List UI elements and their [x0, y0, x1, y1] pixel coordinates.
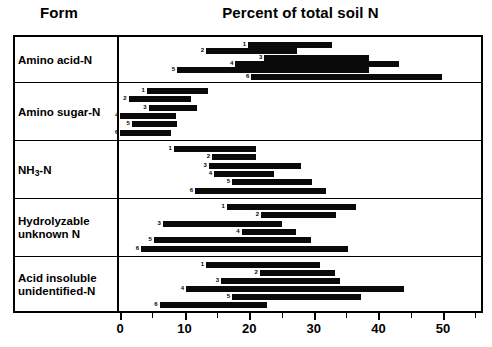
bar-number-label: 5: [123, 120, 130, 126]
range-bar: [251, 74, 442, 80]
range-bar: [154, 237, 311, 243]
x-tick-minor: [152, 313, 153, 318]
x-tick-major: [443, 313, 445, 320]
row-label: Amino acid-N: [18, 54, 124, 67]
bar-number-label: 3: [255, 54, 262, 60]
x-tick-major: [249, 313, 251, 320]
column-header-form: Form: [0, 4, 118, 21]
range-bar: [261, 212, 336, 218]
range-bar: [209, 163, 301, 169]
range-bar: [129, 96, 191, 102]
bar-number-label: 6: [151, 301, 158, 307]
x-tick-minor: [475, 313, 476, 318]
x-axis: 0 10 20 30 40 50: [119, 313, 483, 347]
range-bar: [221, 278, 340, 284]
range-bar: [186, 286, 404, 292]
x-tick-label-10: 10: [165, 321, 205, 336]
bar-number-label: 5: [145, 236, 152, 242]
range-bar: [177, 67, 369, 73]
range-bar: [174, 146, 256, 152]
bar-number-label: 2: [252, 211, 259, 217]
range-bar: [141, 246, 348, 252]
x-tick-major: [185, 313, 187, 320]
bar-number-label: 4: [177, 285, 184, 291]
x-tick-minor: [282, 313, 283, 318]
x-tick-label-40: 40: [358, 321, 398, 336]
range-bar: [132, 121, 177, 127]
x-tick-label-0: 0: [100, 321, 140, 336]
bar-number-label: 6: [186, 187, 193, 193]
bar-group: 123456: [119, 83, 481, 141]
bar-number-label: 3: [140, 104, 147, 110]
bar-number-label: 6: [132, 245, 139, 251]
row-label: Amino sugar-N: [18, 106, 124, 119]
bar-number-label: 5: [223, 293, 230, 299]
bar-group: 123456: [119, 199, 481, 257]
x-tick-label-30: 30: [294, 321, 334, 336]
bar-number-label: 2: [120, 95, 127, 101]
bar-number-label: 6: [111, 129, 118, 135]
range-bar: [212, 154, 256, 160]
range-bar: [120, 113, 176, 119]
range-bar: [147, 88, 208, 94]
bar-number-label: 6: [242, 73, 249, 79]
row-label: Hydrolyzableunknown N: [18, 215, 124, 241]
range-bar: [235, 61, 398, 67]
bar-number-label: 1: [197, 261, 204, 267]
x-tick-major: [120, 313, 122, 320]
bar-number-label: 2: [197, 47, 204, 53]
bar-number-label: 1: [218, 203, 225, 209]
range-bar: [248, 42, 332, 48]
range-bar: [264, 55, 369, 61]
range-bar: [232, 294, 361, 300]
x-tick-major: [378, 313, 380, 320]
plot-area: 123456123456123456123456123456: [119, 37, 481, 313]
x-tick-minor: [217, 313, 218, 318]
range-bar: [160, 302, 267, 308]
range-bar: [232, 179, 312, 185]
chart-figure: Form Percent of total soil N Amino acid-…: [0, 0, 492, 347]
x-tick-label-20: 20: [229, 321, 269, 336]
x-tick-minor: [411, 313, 412, 318]
range-bar: [206, 262, 320, 268]
bar-number-label: 1: [165, 145, 172, 151]
range-bar: [227, 204, 356, 210]
bar-group: 123456: [119, 37, 481, 83]
range-bar: [206, 48, 296, 54]
bar-number-label: 4: [111, 112, 118, 118]
column-header-percent: Percent of total soil N: [118, 4, 483, 21]
bar-number-label: 3: [200, 162, 207, 168]
range-bar: [214, 171, 274, 177]
bar-number-label: 4: [226, 60, 233, 66]
bar-group: 123456: [119, 257, 481, 313]
range-bar: [260, 270, 335, 276]
bar-number-label: 3: [212, 277, 219, 283]
x-tick-label-50: 50: [423, 321, 463, 336]
x-tick-minor: [346, 313, 347, 318]
bar-number-label: 2: [203, 153, 210, 159]
range-bar: [242, 229, 296, 235]
bar-number-label: 4: [205, 170, 212, 176]
bar-number-label: 1: [138, 87, 145, 93]
row-label: NH3-N: [18, 164, 124, 178]
bar-group: 123456: [119, 141, 481, 199]
bar-number-label: 4: [233, 228, 240, 234]
bar-number-label: 5: [223, 178, 230, 184]
bar-number-label: 2: [251, 269, 258, 275]
range-bar: [120, 130, 170, 136]
range-bar: [163, 221, 282, 227]
bar-number-label: 1: [239, 41, 246, 47]
bar-number-label: 5: [168, 66, 175, 72]
range-bar: [149, 105, 198, 111]
row-label: Acid insolubleunidentified-N: [18, 272, 124, 298]
range-bar: [195, 188, 326, 194]
x-tick-major: [314, 313, 316, 320]
bar-number-label: 3: [154, 220, 161, 226]
